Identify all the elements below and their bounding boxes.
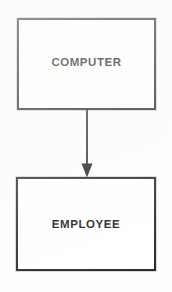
entity-label-employee: EMPLOYEE xyxy=(52,220,120,232)
entity-box-employee[interactable]: EMPLOYEE xyxy=(16,177,156,271)
arrow-head-icon xyxy=(82,164,93,178)
entity-label-computer: COMPUTER xyxy=(51,58,121,70)
entity-box-computer[interactable]: COMPUTER xyxy=(17,18,156,110)
diagram-canvas: COMPUTER EMPLOYEE xyxy=(0,0,172,292)
